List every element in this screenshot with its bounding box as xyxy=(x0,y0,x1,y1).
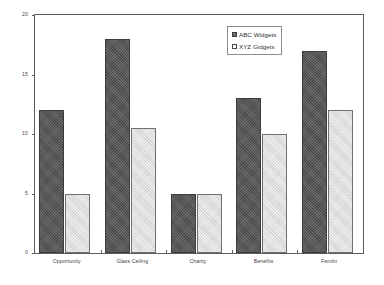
y-axis-tick-mark xyxy=(32,134,35,135)
legend-swatch-icon-abc xyxy=(232,32,237,37)
y-axis-tick-label: 20 xyxy=(22,11,28,18)
bar-xyz-gidgets xyxy=(262,134,287,253)
bar-abc-widgets xyxy=(105,39,130,253)
bar-chart: 20151050 OpportunityGlass CeilingCharity… xyxy=(0,0,384,285)
bar-xyz-gidgets xyxy=(131,128,156,253)
y-axis-tick-mark xyxy=(32,75,35,76)
legend-swatch-icon-xyz xyxy=(232,44,237,49)
y-axis-tick-mark xyxy=(32,15,35,16)
x-axis-tick-mark xyxy=(166,250,167,253)
x-axis-tick-mark xyxy=(363,250,364,253)
legend-item-xyz-gidgets: XYZ Gidgets xyxy=(232,42,276,51)
bar-abc-widgets xyxy=(171,194,196,254)
legend-label-xyz: XYZ Gidgets xyxy=(239,43,275,51)
legend-item-abc-widgets: ABC Widgets xyxy=(232,30,276,39)
y-axis-tick-label: 15 xyxy=(22,71,28,78)
x-axis-label: Femlin xyxy=(321,258,337,264)
plot-area: 20151050 xyxy=(34,14,364,254)
x-axis-label: Benefits xyxy=(254,258,274,264)
x-axis-tick-mark xyxy=(101,250,102,253)
bar-xyz-gidgets xyxy=(197,194,222,254)
x-axis-label: Opportunity xyxy=(53,258,81,264)
y-axis-tick-mark xyxy=(32,194,35,195)
bar-abc-widgets xyxy=(302,51,327,253)
chart-legend: ABC Widgets XYZ Gidgets xyxy=(227,26,282,55)
bar-xyz-gidgets xyxy=(328,110,353,253)
x-axis-tick-mark xyxy=(232,250,233,253)
x-axis-tick-mark xyxy=(297,250,298,253)
y-axis-tick-label: 10 xyxy=(22,130,28,137)
legend-label-abc: ABC Widgets xyxy=(239,31,276,39)
y-axis-tick-label: 0 xyxy=(25,249,28,256)
bar-abc-widgets xyxy=(236,98,261,253)
x-axis-label: Glass Ceiling xyxy=(116,258,148,264)
bar-abc-widgets xyxy=(39,110,64,253)
y-axis-tick-label: 5 xyxy=(25,190,28,197)
y-axis-tick-mark xyxy=(32,253,35,254)
bar-xyz-gidgets xyxy=(65,194,90,254)
x-axis-label: Charity xyxy=(189,258,206,264)
